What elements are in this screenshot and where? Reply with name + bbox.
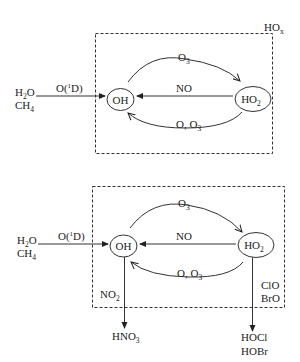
bro-label: BrO [261,292,280,304]
no-label: NO [176,230,192,242]
o-o3-label: O, O3 [177,267,202,282]
ho2-label: HO2 [241,93,261,108]
ho2-label: HO2 [244,239,264,254]
source-ch4: CH4 [17,247,36,262]
o1d-label: O(1D) [56,82,83,95]
top-diagram: HOx H2O CH4 O(1D) OH HO2 O3 NO O, O3 [15,21,284,154]
source-ch4: CH4 [15,99,34,114]
hocl-label: HOCl [241,331,267,343]
bottom-diagram: H2O CH4 O(1D) OH HO2 O3 NO O, O3 NO2 HNO… [17,187,285,358]
hox-cycle-figure: HOx H2O CH4 O(1D) OH HO2 O3 NO O, O3 H2O… [0,0,300,362]
clo-label: ClO [261,279,279,291]
no-label: NO [176,82,192,94]
hno3-label: HNO3 [112,330,140,345]
oh-label: OH [113,94,129,106]
oh-label: OH [116,240,132,252]
o3-top-label: O3 [178,51,190,66]
o3-top-label: O3 [178,197,190,212]
no2-label: NO2 [100,288,120,303]
o-o3-label: O, O3 [176,118,201,133]
o1d-label: O(1D) [58,230,85,243]
hobr-label: HOBr [241,345,268,357]
